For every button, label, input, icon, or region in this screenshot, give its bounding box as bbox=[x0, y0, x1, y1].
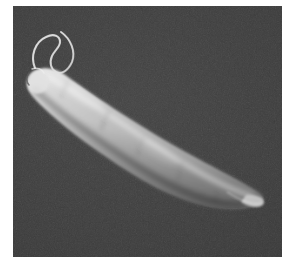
page-margin-right bbox=[282, 0, 294, 273]
figure-root bbox=[0, 0, 294, 273]
specimen-image bbox=[13, 6, 282, 257]
page-margin-left bbox=[0, 0, 13, 273]
figure-caption bbox=[13, 259, 282, 272]
flagellum bbox=[33, 32, 73, 73]
page-margin-top bbox=[0, 0, 294, 6]
micrograph-panel bbox=[13, 6, 282, 257]
